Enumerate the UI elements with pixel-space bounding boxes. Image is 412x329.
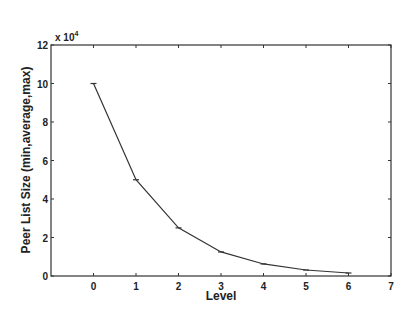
x-tick-label: 1 [133, 281, 139, 292]
x-tick-label: 5 [303, 281, 309, 292]
y-axis-multiplier: x 104 [55, 30, 78, 43]
x-tick-label: 7 [388, 281, 394, 292]
x-tick-label: 4 [261, 281, 267, 292]
x-tick-label: 6 [346, 281, 352, 292]
plot-area [51, 45, 391, 276]
y-tick-label: 2 [42, 233, 48, 244]
y-tick-label: 4 [42, 194, 48, 205]
y-tick-label: 12 [37, 40, 49, 51]
y-tick-label: 6 [42, 156, 48, 167]
data-series [91, 84, 352, 273]
x-tick-label: 0 [91, 281, 97, 292]
x-tick-label: 2 [176, 281, 182, 292]
line-chart: 01234567 024681012 x 104 Level Peer List… [0, 0, 412, 329]
y-axis-ticks: 024681012 [37, 40, 391, 282]
y-axis-title: Peer List Size (min,average,max) [19, 67, 33, 254]
x-axis-title: Level [206, 289, 237, 303]
y-tick-label: 10 [37, 79, 49, 90]
y-tick-label: 0 [42, 271, 48, 282]
x-axis-ticks: 01234567 [91, 45, 395, 292]
y-tick-label: 8 [42, 117, 48, 128]
series-line [94, 84, 349, 273]
